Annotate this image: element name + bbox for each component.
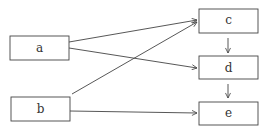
edge-a-to-d: [69, 48, 197, 68]
node-label-e: e: [225, 106, 232, 120]
node-label-c: c: [225, 13, 232, 27]
node-d: d: [199, 56, 258, 79]
node-c: c: [199, 9, 258, 33]
edge-b-to-c: [72, 22, 197, 94]
node-label-d: d: [225, 61, 233, 75]
node-e: e: [199, 102, 258, 125]
node-b: b: [11, 97, 70, 121]
node-label-b: b: [37, 102, 45, 116]
node-label-a: a: [36, 41, 43, 55]
flow-diagram: a b c d e: [0, 0, 267, 138]
edge-a-to-c: [69, 20, 197, 42]
node-a: a: [10, 36, 69, 60]
edge-b-to-e: [70, 111, 197, 113]
